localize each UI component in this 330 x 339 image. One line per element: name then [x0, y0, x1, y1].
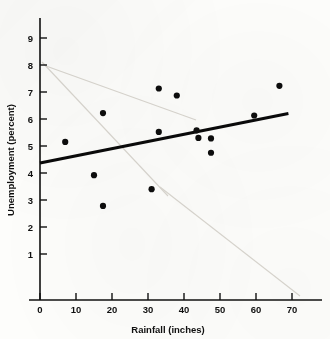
- x-tick-label-30: 30: [143, 304, 154, 315]
- y-axis-ticks: 9 8 7 6 5 4 3 2 1: [28, 33, 47, 260]
- data-point: [91, 172, 97, 178]
- scatter-plot-figure: 9 8 7 6 5 4 3 2 1 0 10 20 30 40 50 60: [0, 0, 330, 339]
- data-points-layer: [62, 83, 282, 209]
- y-tick-label-8: 8: [28, 60, 33, 71]
- y-axis-title: Unemployment (percent): [5, 104, 16, 216]
- y-tick-label-6: 6: [28, 114, 33, 125]
- x-axis-title: Rainfall (inches): [131, 324, 204, 335]
- data-point: [149, 186, 155, 192]
- x-tick-label-70: 70: [287, 304, 298, 315]
- x-tick-label-60: 60: [251, 304, 262, 315]
- y-tick-label-5: 5: [28, 141, 34, 152]
- data-point: [100, 110, 106, 116]
- data-point: [276, 83, 282, 89]
- y-tick-label-1: 1: [28, 249, 34, 260]
- data-point: [194, 127, 200, 133]
- data-point: [174, 92, 180, 98]
- x-tick-label-10: 10: [71, 304, 82, 315]
- x-tick-label-50: 50: [215, 304, 226, 315]
- data-point: [208, 135, 214, 141]
- data-point: [156, 129, 162, 135]
- data-point: [100, 203, 106, 209]
- data-point: [195, 135, 201, 141]
- data-point: [208, 150, 214, 156]
- y-tick-label-4: 4: [28, 168, 34, 179]
- data-point: [156, 85, 162, 91]
- x-tick-label-20: 20: [107, 304, 118, 315]
- data-point: [62, 139, 68, 145]
- regression-line: [40, 114, 288, 163]
- data-point: [251, 112, 257, 118]
- paper-artifact-lines: [42, 62, 300, 296]
- x-axis-ticks: 0 10 20 30 40 50 60 70: [37, 293, 297, 315]
- y-tick-label-7: 7: [28, 87, 33, 98]
- y-tick-label-3: 3: [28, 195, 33, 206]
- chart-canvas: 9 8 7 6 5 4 3 2 1 0 10 20 30 40 50 60: [0, 0, 330, 339]
- x-tick-label-0: 0: [37, 304, 42, 315]
- x-tick-label-40: 40: [179, 304, 190, 315]
- plot-axes: [29, 18, 322, 300]
- y-tick-label-9: 9: [28, 33, 33, 44]
- y-tick-label-2: 2: [28, 222, 33, 233]
